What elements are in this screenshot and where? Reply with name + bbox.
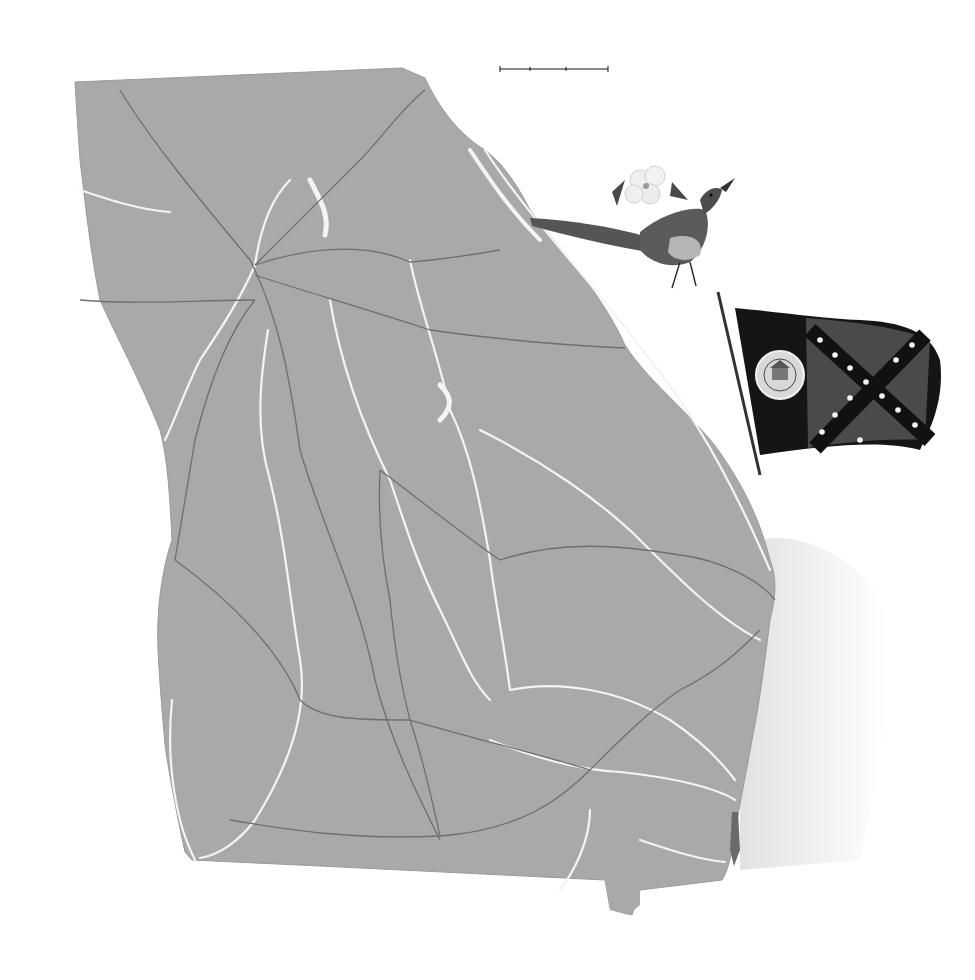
georgia-map	[0, 0, 975, 980]
bird-legs	[672, 262, 696, 288]
georgia-state-shape	[75, 68, 775, 915]
rose-leaf-right	[670, 182, 688, 200]
bird-head	[700, 188, 722, 214]
georgia-state-flag	[718, 292, 941, 475]
cherokee-rose-illustration	[612, 166, 688, 206]
bird-beak	[720, 178, 735, 192]
okefenokee-lobe	[605, 880, 640, 915]
rose-leaf-left	[612, 180, 625, 206]
scale-bar	[500, 66, 608, 72]
